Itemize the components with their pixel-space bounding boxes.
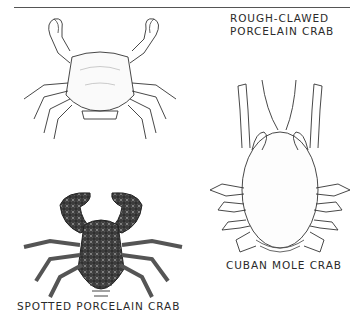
- rough-clawed-porcelain-crab-illustration: [10, 15, 190, 145]
- label-line: CUBAN MOLE CRAB: [226, 259, 342, 272]
- label-line: SPOTTED PORCELAIN CRAB: [17, 300, 180, 313]
- spotted-porcelain-crab-label: SPOTTED PORCELAIN CRAB: [17, 300, 180, 313]
- cuban-mole-crab-label: CUBAN MOLE CRAB: [226, 259, 342, 272]
- rough-clawed-porcelain-crab-label: ROUGH-CLAWED PORCELAIN CRAB: [230, 12, 334, 38]
- cuban-mole-crab-illustration: [200, 80, 350, 258]
- spotted-porcelain-crab-illustration: [10, 185, 200, 300]
- label-line: PORCELAIN CRAB: [230, 25, 334, 38]
- label-line: ROUGH-CLAWED: [230, 12, 334, 25]
- header-rule: [14, 7, 350, 8]
